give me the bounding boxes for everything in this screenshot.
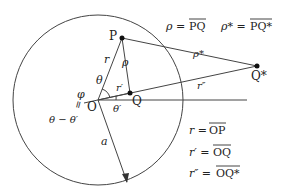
def-rho-lhs: ρ = <box>165 20 185 33</box>
theta-arc <box>102 89 110 98</box>
def-r-prime-rhs: OQ <box>213 146 231 159</box>
label-theta-prime: θ′ <box>113 103 122 114</box>
label-theta-minus-theta-prime: θ − θ′ <box>49 114 79 125</box>
label-O: O <box>87 100 97 114</box>
label-Qstar: Q* <box>251 69 267 83</box>
def-rho-star-rhs: PQ* <box>250 20 272 33</box>
label-rho: ρ <box>121 56 129 69</box>
label-phi: φ <box>77 88 85 101</box>
def-r-dprime-rhs: OQ* <box>216 167 240 180</box>
label-theta: θ <box>96 74 103 87</box>
label-r-prime: r′ <box>116 82 124 93</box>
def-r-dprime-lhs: r″ = <box>189 167 211 180</box>
def-rho-star-lhs: ρ* = <box>220 20 246 33</box>
line-PQstar <box>122 38 257 66</box>
label-r: r <box>104 53 110 66</box>
def-r-rhs: OP <box>209 124 226 137</box>
def-rho-rhs: PQ <box>189 20 205 33</box>
label-P: P <box>109 29 117 43</box>
point-P <box>120 36 125 41</box>
label-Q: Q <box>132 94 142 108</box>
label-r-dprime: r″ <box>197 80 206 91</box>
def-r-lhs: r = <box>189 124 207 137</box>
diagram: P Q Q* O r ρ ρ* r′ r″ θ θ′ φ = θ − θ′ a … <box>0 0 285 192</box>
label-rho-star: ρ* <box>192 48 204 59</box>
label-a: a <box>101 135 108 148</box>
point-Qstar <box>255 64 260 69</box>
def-r-prime-lhs: r′ = <box>189 146 209 159</box>
